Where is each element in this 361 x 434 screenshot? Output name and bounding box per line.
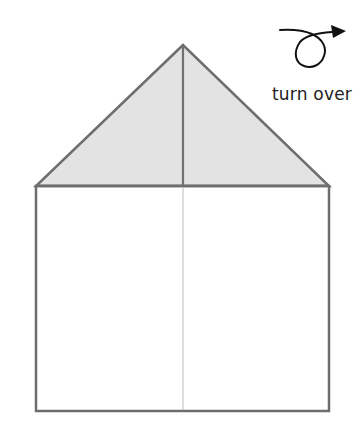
turn-over-icon [280,30,332,67]
arrow-head-icon [331,25,346,38]
folding-diagram [0,0,361,434]
turn-over-label: turn over [272,84,352,104]
